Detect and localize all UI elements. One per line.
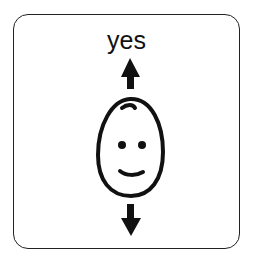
face-icon	[98, 99, 163, 196]
up-arrow-icon	[121, 58, 140, 89]
nod-yes-illustration	[0, 0, 253, 259]
down-arrow-icon	[121, 204, 141, 236]
eyes-icon	[118, 141, 146, 149]
